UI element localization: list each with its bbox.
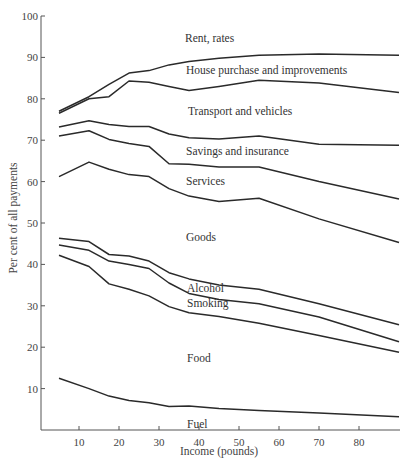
x-axis-title: Income (pounds) (180, 445, 258, 458)
label-rent-rates: Rent, rates (185, 32, 235, 45)
series-line-0 (59, 54, 399, 111)
series-line-6 (59, 245, 399, 342)
label-goods: Goods (186, 231, 217, 243)
x-tick-label: 30 (154, 436, 166, 448)
y-tick-label: 90 (27, 51, 39, 63)
x-tick-label: 80 (354, 436, 366, 448)
label-alcohol: Alcohol (187, 282, 224, 294)
label-fuel: Fuel (187, 418, 207, 430)
y-tick-label: 20 (27, 341, 39, 353)
x-tick-label: 10 (74, 436, 86, 448)
x-tick-label: 60 (274, 436, 286, 448)
series-line-8 (59, 378, 399, 417)
label-savings: Savings and insurance (186, 145, 289, 158)
y-tick-label: 30 (27, 300, 39, 312)
x-tick-label: 20 (114, 436, 126, 448)
series-line-5 (59, 238, 399, 324)
y-tick-label: 70 (27, 134, 39, 146)
label-smoking: Smoking (187, 297, 229, 310)
stacked-line-chart: 102030405060708090100 1020304050607080 R… (0, 0, 416, 469)
label-transport: Transport and vehicles (188, 105, 293, 118)
series-line-7 (59, 255, 399, 352)
y-axis: 102030405060708090100 (22, 10, 46, 430)
label-food: Food (187, 352, 211, 364)
y-tick-label: 100 (22, 10, 39, 22)
y-tick-label: 60 (27, 176, 39, 188)
series-line-2 (59, 121, 399, 146)
label-services: Services (186, 175, 225, 187)
series-line-3 (59, 131, 399, 199)
y-tick-label: 40 (27, 258, 39, 270)
label-house-purchase: House purchase and improvements (186, 64, 348, 77)
x-tick-label: 70 (314, 436, 326, 448)
series-line-4 (59, 162, 399, 242)
y-tick-label: 50 (27, 217, 39, 229)
y-axis-title: Per cent of all payments (7, 162, 20, 274)
y-tick-label: 10 (27, 383, 39, 395)
y-tick-label: 80 (27, 93, 39, 105)
